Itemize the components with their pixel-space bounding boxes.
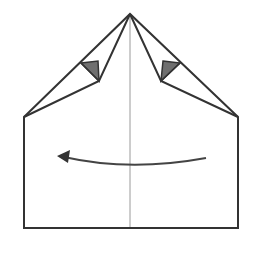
origami-diagram <box>0 0 257 254</box>
arrow-head-icon <box>57 150 70 163</box>
fold-arrow-icon <box>64 157 206 165</box>
paper-outline <box>24 14 238 228</box>
